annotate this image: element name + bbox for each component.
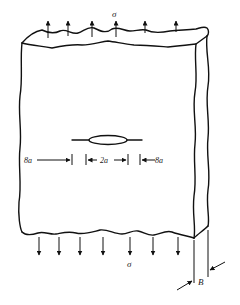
plate-left-edge (19, 43, 22, 232)
plate (19, 27, 209, 238)
crack-ellipse (89, 136, 127, 145)
crack-dimensions: 8a 2a 8a (24, 154, 163, 165)
plate-bottom-edge (22, 230, 194, 238)
stress-label-top: σ (112, 9, 117, 19)
thickness-arrow-front (177, 281, 192, 290)
thickness-label: B (198, 277, 204, 287)
crack (72, 136, 142, 145)
stress-label-bottom: σ (127, 259, 132, 269)
plate-right-front-edge (193, 44, 196, 238)
plate-top-front-edge (22, 36, 207, 48)
bottom-stress-arrows (39, 237, 178, 255)
cracked-plate-diagram: σ σ 8a 2a 8a B (0, 0, 240, 305)
right-distance-label: 8a (155, 156, 163, 165)
left-distance-label: 8a (24, 156, 32, 165)
plate-bottom-right-edge (194, 226, 208, 238)
thickness-dimension: B (177, 230, 225, 290)
thickness-arrow-back (210, 262, 225, 270)
plate-top-back-edge (22, 27, 209, 43)
plate-right-back-edge (207, 36, 209, 226)
crack-length-label: 2a (100, 156, 108, 165)
